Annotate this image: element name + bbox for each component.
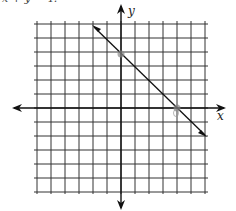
x-axis-label: x	[217, 109, 224, 123]
y-axis-label: y	[128, 4, 135, 18]
x-axis	[12, 104, 226, 112]
point-y-intercept	[118, 51, 125, 58]
y-axis	[117, 4, 125, 210]
coordinate-graph	[0, 0, 236, 211]
